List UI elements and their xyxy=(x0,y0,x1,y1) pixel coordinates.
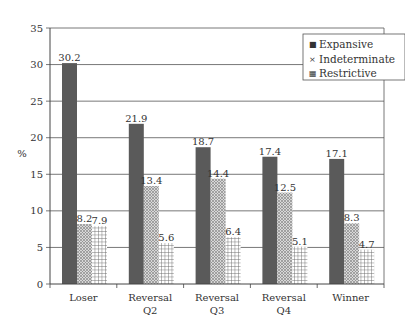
data-label: 7.9 xyxy=(92,215,108,226)
y-tick-label: 25 xyxy=(30,96,43,107)
y-tick-label: 20 xyxy=(30,132,43,143)
x-tick-label: Q3 xyxy=(210,305,225,316)
bar-expansive xyxy=(62,63,77,284)
bar-chart: 05101520253035LoserReversalQ2ReversalQ3R… xyxy=(0,0,405,328)
y-axis-label: % xyxy=(17,148,27,159)
data-label: 17.4 xyxy=(259,146,281,157)
y-tick-label: 10 xyxy=(30,205,43,216)
y-tick-label: 0 xyxy=(37,279,43,290)
bar-indeterminate xyxy=(277,193,292,284)
bar-restrictive xyxy=(292,247,307,284)
data-label: 6.4 xyxy=(225,226,241,237)
bar-expansive xyxy=(262,157,277,284)
x-tick-label: Reversal xyxy=(128,292,172,303)
data-label: 5.1 xyxy=(292,236,308,247)
data-label: 30.2 xyxy=(58,52,80,63)
legend-label: Restrictive xyxy=(319,67,377,79)
data-label: 18.7 xyxy=(192,136,214,147)
y-tick-label: 5 xyxy=(37,242,43,253)
data-label: 5.6 xyxy=(158,232,174,243)
x-tick-label: Reversal xyxy=(262,292,306,303)
legend: ■Expansive×Indeterminate▦Restrictive xyxy=(303,34,405,80)
data-label: 4.7 xyxy=(359,239,375,250)
data-label: 8.2 xyxy=(77,213,93,224)
data-label: 12.5 xyxy=(274,182,296,193)
y-tick-label: 35 xyxy=(30,23,43,34)
x-tick-label: Q4 xyxy=(277,305,292,316)
legend-swatch-icon: × xyxy=(309,55,316,64)
y-tick-label: 15 xyxy=(30,169,43,180)
data-label: 13.4 xyxy=(140,175,162,186)
x-tick-label: Winner xyxy=(332,292,369,303)
bar-restrictive xyxy=(359,250,374,284)
legend-swatch-icon: ■ xyxy=(309,40,317,49)
bar-indeterminate xyxy=(344,223,359,284)
bar-restrictive xyxy=(159,243,174,284)
bar-indeterminate xyxy=(211,179,226,284)
bar-restrictive xyxy=(92,226,107,284)
bar-restrictive xyxy=(226,237,241,284)
data-label: 21.9 xyxy=(125,113,147,124)
x-tick-label: Reversal xyxy=(195,292,239,303)
bar-indeterminate xyxy=(144,186,159,284)
y-tick-label: 30 xyxy=(30,59,43,70)
bar-expansive xyxy=(129,124,144,284)
data-label: 14.4 xyxy=(207,168,229,179)
data-label: 8.3 xyxy=(344,212,360,223)
data-label: 17.1 xyxy=(326,148,348,159)
bar-indeterminate xyxy=(77,224,92,284)
x-tick-label: Q2 xyxy=(143,305,158,316)
legend-label: Expansive xyxy=(319,38,373,50)
legend-swatch-icon: ▦ xyxy=(309,69,317,78)
legend-label: Indeterminate xyxy=(319,53,395,65)
bar-expansive xyxy=(329,159,344,284)
x-tick-label: Loser xyxy=(69,292,98,303)
